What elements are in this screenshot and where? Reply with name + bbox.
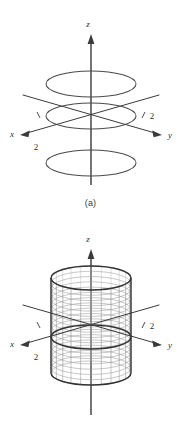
y-axis-a [23,95,162,137]
x-axis-label-a: x [9,129,14,139]
panel-a-graphic: z x y 2 2 [0,0,181,215]
z-axis-a [88,34,95,185]
panel-b-graphic: z x y 2 2 [0,215,181,431]
x-tick-label-a: 2 [34,142,39,152]
x-axis-label-b: x [9,339,14,349]
x-axis-a [20,95,159,137]
z-axis-label-b: z [85,234,90,244]
figure-panel-b: z x y 2 2 (b) [0,215,181,431]
y-tick-label-a: 2 [150,111,155,121]
y-axis-label-a: y [167,130,172,140]
y-axis-label-b: y [167,340,172,350]
panel-a-caption: (a) [0,198,181,208]
figure-panel-a: z x y 2 2 (a) [0,0,181,215]
x-tick-label-b: 2 [34,352,39,362]
y-tick-label-b: 2 [150,321,155,331]
z-axis-label-a: z [85,19,90,29]
figure-page: z x y 2 2 (a) [0,0,181,431]
